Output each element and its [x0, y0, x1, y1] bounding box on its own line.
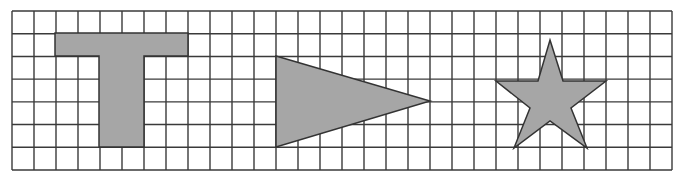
grid-figure — [0, 0, 680, 177]
